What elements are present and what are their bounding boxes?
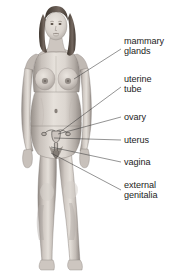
label-external-genitalia: external genitalia: [124, 180, 157, 201]
anatomy-diagram: mammary glands uterine tube ovary uterus…: [0, 0, 175, 273]
label-mammary-glands: mammary glands: [124, 36, 164, 57]
label-uterine-tube: uterine tube: [124, 74, 151, 95]
label-ovary: ovary: [124, 112, 146, 122]
label-vagina: vagina: [124, 157, 151, 167]
label-uterus: uterus: [124, 135, 149, 145]
